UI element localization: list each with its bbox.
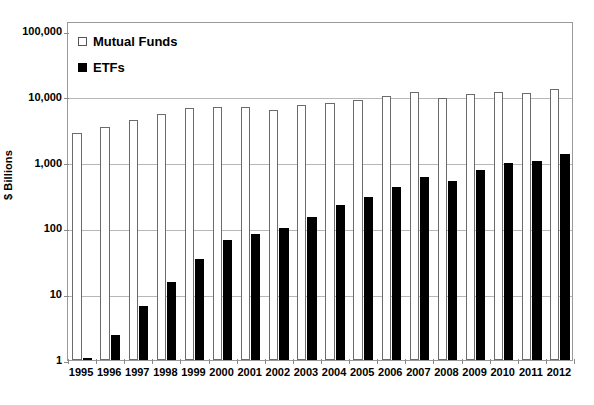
bar-etfs-2010 — [504, 163, 513, 360]
y-axis-tick — [64, 164, 69, 165]
bar-mutual-funds-2000 — [213, 107, 222, 360]
y-axis-tick-labels: 1101001,00010,000100,000 — [0, 0, 62, 405]
bar-mutual-funds-2005 — [353, 100, 362, 360]
bar-etfs-2009 — [476, 170, 485, 360]
bar-etfs-1997 — [139, 306, 148, 360]
bar-mutual-funds-2010 — [494, 92, 503, 360]
x-axis-tick — [237, 359, 238, 364]
x-axis-tick — [180, 359, 181, 364]
legend-item-etfs: ETFs — [78, 56, 228, 78]
bar-mutual-funds-2002 — [269, 110, 278, 360]
bar-mutual-funds-2008 — [438, 98, 447, 360]
x-axis-tick — [433, 359, 434, 364]
x-axis-tick — [574, 359, 575, 364]
bar-etfs-1999 — [195, 259, 204, 360]
bar-mutual-funds-2007 — [410, 92, 419, 360]
y-axis-tick — [64, 98, 69, 99]
x-axis-tick — [405, 359, 406, 364]
bar-mutual-funds-2012 — [550, 89, 559, 360]
x-axis-tick — [152, 359, 153, 364]
bar-etfs-2003 — [307, 217, 316, 360]
x-axis-tick — [209, 359, 210, 364]
x-axis-tick — [490, 359, 491, 364]
bar-etfs-2000 — [223, 240, 232, 360]
y-axis-tick-label: 1,000 — [2, 157, 62, 169]
legend-filled-square-icon — [78, 63, 87, 72]
x-axis-tick — [96, 359, 97, 364]
y-axis-tick — [64, 230, 69, 231]
y-axis-tick — [64, 296, 69, 297]
x-axis-tick — [546, 359, 547, 364]
bar-etfs-2007 — [420, 177, 429, 360]
bar-mutual-funds-2003 — [297, 105, 306, 360]
bar-mutual-funds-2009 — [466, 94, 475, 360]
bar-mutual-funds-1998 — [157, 114, 166, 360]
bar-etfs-2001 — [251, 234, 260, 360]
x-axis-tick — [293, 359, 294, 364]
x-axis-tick — [377, 359, 378, 364]
bar-mutual-funds-1996 — [100, 127, 109, 360]
x-axis-tick — [265, 359, 266, 364]
y-axis-tick-label: 100 — [2, 222, 62, 234]
bar-etfs-1996 — [111, 335, 120, 360]
bar-mutual-funds-2001 — [241, 107, 250, 360]
x-axis-tick-label: 2012 — [543, 366, 575, 378]
x-axis-tick — [124, 359, 125, 364]
legend-label: ETFs — [93, 61, 125, 74]
legend-label: Mutual Funds — [93, 35, 178, 48]
bar-mutual-funds-2011 — [522, 93, 531, 361]
x-axis-tick — [349, 359, 350, 364]
y-axis-tick-label: 10,000 — [2, 91, 62, 103]
bar-chart: $ Billions 1101001,00010,000100,000 1995… — [0, 0, 594, 405]
x-axis-tick — [462, 359, 463, 364]
bar-etfs-2008 — [448, 181, 457, 360]
bar-etfs-1998 — [167, 282, 176, 361]
bar-mutual-funds-1999 — [185, 108, 194, 360]
x-axis-tick-labels: 1995199619971998199920002001200220032004… — [67, 366, 573, 388]
legend-open-square-icon — [78, 37, 87, 46]
bar-mutual-funds-1995 — [72, 133, 81, 360]
bar-etfs-2005 — [364, 197, 373, 360]
y-axis-tick-label: 100,000 — [2, 25, 62, 37]
bar-etfs-1995 — [83, 358, 92, 360]
bar-etfs-2004 — [336, 205, 345, 360]
bar-mutual-funds-2004 — [325, 103, 334, 360]
chart-legend: Mutual FundsETFs — [78, 30, 228, 82]
bar-etfs-2002 — [279, 228, 288, 360]
bar-mutual-funds-1997 — [129, 120, 138, 360]
y-axis-tick — [64, 33, 69, 34]
bar-mutual-funds-2006 — [382, 96, 391, 360]
y-axis-tick-label: 10 — [2, 288, 62, 300]
x-axis-tick — [518, 359, 519, 364]
bar-etfs-2006 — [392, 187, 401, 360]
bar-etfs-2011 — [532, 161, 541, 360]
bar-etfs-2012 — [560, 154, 569, 360]
legend-item-mutual-funds: Mutual Funds — [78, 30, 228, 52]
x-axis-tick — [68, 359, 69, 364]
x-axis-tick — [321, 359, 322, 364]
y-axis-tick-label: 1 — [2, 354, 62, 366]
